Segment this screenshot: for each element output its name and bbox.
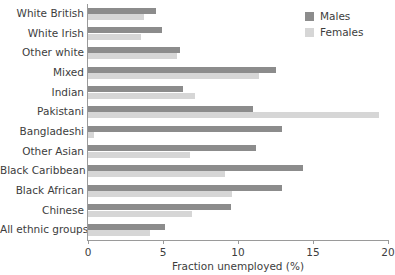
bar-group bbox=[88, 220, 388, 240]
bar-group bbox=[88, 102, 388, 122]
x-tick-label-1: 5 bbox=[160, 246, 167, 258]
x-tick-label-4: 20 bbox=[381, 246, 394, 258]
y-axis-label-5: Pakistani bbox=[0, 106, 84, 117]
bar-females bbox=[88, 112, 379, 118]
bar-males bbox=[88, 86, 183, 92]
bar-group bbox=[88, 122, 388, 142]
bar-females bbox=[88, 132, 94, 138]
x-tick-label-3: 15 bbox=[306, 246, 319, 258]
bar-males bbox=[88, 165, 303, 171]
y-axis-label-8: Black Caribbean bbox=[0, 165, 84, 176]
bar-males bbox=[88, 185, 282, 191]
bar-females bbox=[88, 230, 150, 236]
bar-males bbox=[88, 126, 282, 132]
x-tick-label-2: 10 bbox=[231, 246, 244, 258]
bar-males bbox=[88, 47, 180, 53]
bar-females bbox=[88, 211, 192, 217]
bar-males bbox=[88, 145, 256, 151]
x-axis-title: Fraction unemployed (%) bbox=[88, 260, 388, 272]
x-tick-mark-1 bbox=[163, 240, 164, 244]
bar-females bbox=[88, 93, 195, 99]
bar-males bbox=[88, 67, 276, 73]
y-axis-label-1: White Irish bbox=[0, 28, 84, 39]
bar-females bbox=[88, 73, 259, 79]
bar-group bbox=[88, 201, 388, 221]
bar-females bbox=[88, 14, 144, 20]
x-tick-label-0: 0 bbox=[85, 246, 92, 258]
x-tick-mark-4 bbox=[388, 240, 389, 244]
y-axis-category-labels: White BritishWhite IrishOther whiteMixed… bbox=[0, 4, 84, 240]
legend-item-females: Females bbox=[305, 25, 363, 39]
bar-females bbox=[88, 171, 225, 177]
bar-group bbox=[88, 181, 388, 201]
legend-label-males: Males bbox=[320, 11, 350, 22]
bar-group bbox=[88, 142, 388, 162]
bar-males bbox=[88, 204, 231, 210]
bar-males bbox=[88, 8, 156, 14]
y-axis-label-7: Other Asian bbox=[0, 146, 84, 157]
y-axis-label-3: Mixed bbox=[0, 67, 84, 78]
y-axis-label-4: Indian bbox=[0, 87, 84, 98]
x-tick-mark-3 bbox=[313, 240, 314, 244]
legend-swatch-females bbox=[305, 28, 314, 37]
bar-group bbox=[88, 161, 388, 181]
chart-legend: Males Females bbox=[305, 9, 363, 41]
y-axis-label-6: Bangladeshi bbox=[0, 126, 84, 137]
bar-males bbox=[88, 224, 165, 230]
bar-females bbox=[88, 34, 141, 40]
y-axis-label-2: Other white bbox=[0, 47, 84, 58]
y-axis-label-0: White British bbox=[0, 8, 84, 19]
bar-females bbox=[88, 191, 232, 197]
bar-females bbox=[88, 53, 177, 59]
bar-group bbox=[88, 63, 388, 83]
bar-group bbox=[88, 43, 388, 63]
bar-males bbox=[88, 27, 162, 33]
legend-label-females: Females bbox=[320, 27, 363, 38]
legend-swatch-males bbox=[305, 12, 314, 21]
x-tick-mark-2 bbox=[238, 240, 239, 244]
bar-group bbox=[88, 83, 388, 103]
legend-item-males: Males bbox=[305, 9, 363, 23]
y-axis-label-11: All ethnic groups bbox=[0, 224, 84, 235]
bar-males bbox=[88, 106, 253, 112]
x-tick-mark-0 bbox=[88, 240, 89, 244]
y-axis-label-10: Chinese bbox=[0, 205, 84, 216]
y-axis-label-9: Black African bbox=[0, 185, 84, 196]
bar-females bbox=[88, 152, 190, 158]
